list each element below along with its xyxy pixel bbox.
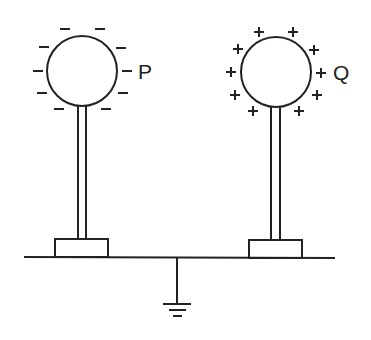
label-q: Q	[333, 61, 349, 84]
ground-line	[24, 257, 335, 258]
diagram-canvas: P Q	[0, 0, 371, 340]
base-q	[249, 240, 302, 258]
earth-ground-icon	[163, 304, 191, 316]
base-p	[55, 239, 108, 257]
label-p: P	[138, 60, 152, 83]
stem-p	[78, 106, 86, 239]
sphere-q	[241, 37, 311, 107]
sphere-p	[47, 36, 117, 106]
stem-q	[271, 107, 280, 240]
